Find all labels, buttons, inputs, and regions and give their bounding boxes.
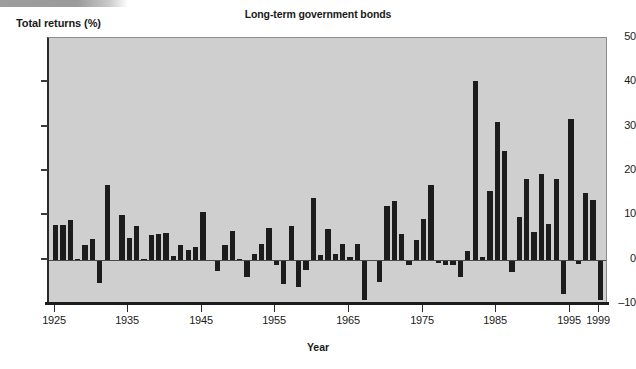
- bar: [414, 240, 419, 260]
- bar: [134, 226, 139, 259]
- x-tick-label: 1945: [189, 314, 213, 326]
- bar: [487, 191, 492, 260]
- bar: [377, 260, 382, 283]
- x-axis-line: [45, 302, 609, 305]
- y-tick-mark: [41, 125, 48, 127]
- bar: [428, 185, 433, 259]
- bar: [97, 260, 102, 283]
- bar: [554, 179, 559, 260]
- x-tick-label: 1955: [262, 314, 286, 326]
- y-tick-label: 0: [602, 252, 636, 264]
- y-tick-label: 20: [602, 163, 636, 175]
- x-tick-mark: [495, 305, 496, 312]
- bar: [384, 206, 389, 260]
- bar: [362, 260, 367, 301]
- scan-artifact: [0, 0, 128, 7]
- x-tick-label: 1965: [336, 314, 360, 326]
- bar: [539, 174, 544, 260]
- bar: [473, 81, 478, 260]
- bar: [60, 225, 65, 260]
- y-tick-label: 40: [602, 74, 636, 86]
- plot-area: [47, 37, 607, 303]
- y-tick-mark: [41, 80, 48, 82]
- chart-title: Long-term government bonds: [0, 8, 636, 20]
- x-tick-mark: [598, 305, 599, 312]
- bar: [399, 234, 404, 259]
- bar: [325, 229, 330, 260]
- bar: [517, 217, 522, 260]
- bar: [421, 219, 426, 260]
- bar: [215, 260, 220, 272]
- bar: [495, 122, 500, 259]
- bar: [90, 239, 95, 260]
- bar: [222, 245, 227, 260]
- bar: [200, 212, 205, 259]
- bar: [244, 260, 249, 277]
- x-axis-label: Year: [0, 341, 636, 353]
- bar: [598, 260, 603, 300]
- x-tick-label: 1925: [42, 314, 66, 326]
- bar: [266, 228, 271, 260]
- bar: [340, 244, 345, 260]
- bar: [230, 231, 235, 260]
- y-tick-label: 50: [602, 30, 636, 42]
- bar: [193, 247, 198, 259]
- x-tick-label: 1985: [483, 314, 507, 326]
- x-tick-mark: [422, 305, 423, 312]
- bars-container: [49, 38, 606, 303]
- y-tick-label: 10: [602, 207, 636, 219]
- bar: [156, 234, 161, 260]
- bar: [163, 233, 168, 260]
- y-tick-mark: [41, 213, 48, 215]
- bar: [53, 225, 58, 260]
- y-tick-mark: [41, 169, 48, 171]
- bar: [458, 260, 463, 278]
- bar: [524, 179, 529, 259]
- bar: [178, 245, 183, 259]
- bar: [531, 232, 536, 259]
- x-tick-mark: [569, 305, 570, 312]
- x-tick-mark: [201, 305, 202, 312]
- bar: [82, 245, 87, 260]
- bar: [303, 260, 308, 270]
- x-tick-label: 1975: [410, 314, 434, 326]
- y-tick-label: 30: [602, 119, 636, 131]
- bar: [149, 235, 154, 259]
- x-tick-mark: [274, 305, 275, 312]
- bar: [583, 193, 588, 260]
- x-tick-mark: [127, 305, 128, 312]
- bar: [105, 185, 110, 259]
- bar: [186, 250, 191, 259]
- x-tick-label: 1999: [586, 314, 610, 326]
- bar: [355, 244, 360, 260]
- chart-figure: Total returns (%) Long-term government b…: [0, 0, 636, 369]
- bar: [289, 226, 294, 259]
- bar: [561, 260, 566, 295]
- bar: [590, 200, 595, 260]
- bar: [311, 198, 316, 259]
- y-tick-mark: [41, 258, 48, 260]
- x-tick-label: 1935: [115, 314, 139, 326]
- bar: [119, 215, 124, 259]
- bar: [465, 251, 470, 259]
- bar: [392, 201, 397, 260]
- zero-line: [49, 260, 606, 261]
- x-tick-label: 1995: [557, 314, 581, 326]
- bar: [502, 151, 507, 260]
- bar: [509, 260, 514, 272]
- bar: [296, 260, 301, 287]
- bar: [127, 238, 132, 260]
- bar: [546, 224, 551, 260]
- x-tick-mark: [54, 305, 55, 312]
- bar: [281, 260, 286, 285]
- bar: [259, 244, 264, 260]
- x-tick-mark: [348, 305, 349, 312]
- bar: [568, 119, 573, 260]
- bar: [68, 220, 73, 259]
